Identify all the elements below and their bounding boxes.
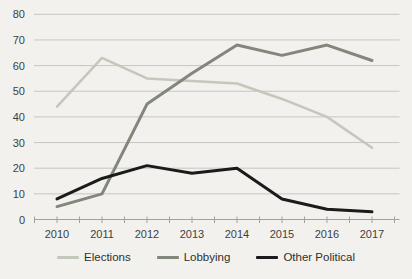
series-line-elections (57, 58, 372, 148)
x-axis-tick-label: 2010 (45, 228, 69, 240)
x-axis-tick-label: 2015 (270, 228, 294, 240)
legend-item-lobbying: Lobbying (157, 251, 231, 263)
legend-item-elections: Elections (57, 251, 131, 263)
legend-label-elections: Elections (84, 251, 131, 263)
legend-label-other-political: Other Political (283, 251, 355, 263)
x-axis-tick-label: 2012 (135, 228, 159, 240)
line-chart: 0102030405060708020102011201220132014201… (0, 0, 412, 279)
other-political-line-swatch (256, 256, 278, 259)
chart-plot-area: 0102030405060708020102011201220132014201… (0, 0, 412, 279)
y-axis-tick-label: 10 (13, 188, 25, 200)
y-axis-tick-label: 0 (19, 214, 25, 226)
legend-item-other-political: Other Political (256, 251, 355, 263)
chart-legend: Elections Lobbying Other Political (0, 251, 412, 263)
x-axis-tick-label: 2016 (315, 228, 339, 240)
y-axis-tick-label: 30 (13, 137, 25, 149)
x-axis-tick-label: 2017 (360, 228, 384, 240)
y-axis-tick-label: 70 (13, 34, 25, 46)
y-axis-tick-label: 20 (13, 162, 25, 174)
y-axis-tick-label: 50 (13, 85, 25, 97)
series-line-lobbying (57, 45, 372, 207)
y-axis-tick-label: 60 (13, 60, 25, 72)
lobbying-line-swatch (157, 256, 179, 259)
x-axis-tick-label: 2013 (180, 228, 204, 240)
x-axis-tick-label: 2014 (225, 228, 249, 240)
y-axis-tick-label: 40 (13, 111, 25, 123)
legend-label-lobbying: Lobbying (184, 251, 231, 263)
elections-line-swatch (57, 256, 79, 259)
y-axis-tick-label: 80 (13, 8, 25, 20)
x-axis-tick-label: 2011 (90, 228, 114, 240)
